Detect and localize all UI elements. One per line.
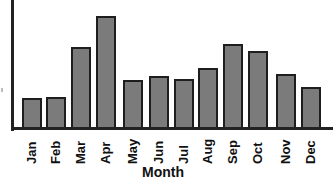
- bar-feb: [46, 97, 66, 128]
- x-tick-label: Apr: [99, 142, 113, 164]
- bar-apr: [96, 16, 116, 128]
- bar-dec: [301, 87, 321, 128]
- x-tick-label: Jan: [25, 142, 39, 164]
- x-tick-label: Jun: [152, 141, 166, 164]
- bar-jun: [149, 76, 169, 128]
- x-tick-label: Nov: [279, 139, 293, 164]
- x-tick-label: Sep: [226, 140, 240, 164]
- x-tick-label: Feb: [49, 141, 63, 164]
- bar-may: [123, 80, 143, 128]
- x-tick-label: Aug: [201, 139, 215, 164]
- y-label-fragment: [1, 88, 3, 92]
- y-axis: [11, 0, 14, 131]
- bar-aug: [198, 68, 218, 128]
- bar-jul: [174, 79, 194, 128]
- bar-oct: [248, 51, 268, 128]
- x-tick-label: Dec: [304, 140, 318, 164]
- bar-sep: [223, 44, 243, 128]
- bar-chart: JanFebMarAprMayJunJulAugSepOctNovDec Mon…: [0, 0, 335, 186]
- x-tick-label: Oct: [251, 142, 265, 164]
- bar-mar: [71, 47, 91, 128]
- bar-nov: [276, 74, 296, 128]
- x-axis-title: Month: [142, 164, 184, 180]
- x-tick-label: Mar: [74, 141, 88, 164]
- x-axis: [11, 127, 333, 130]
- x-tick-label: Jul: [177, 145, 191, 164]
- bar-jan: [22, 98, 42, 128]
- x-tick-label: May: [126, 139, 140, 164]
